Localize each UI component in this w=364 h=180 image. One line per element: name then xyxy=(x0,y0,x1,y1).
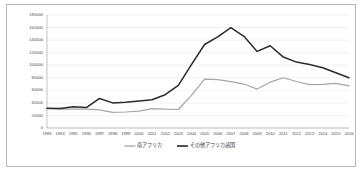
x-axis-tick-label: 2005 xyxy=(200,131,210,136)
x-axis-tick-label: 2013 xyxy=(305,131,315,136)
y-axis-tick-label: 120000 xyxy=(29,50,43,55)
x-axis-tick-label: 2015 xyxy=(331,131,341,136)
x-axis-tick-label: 2006 xyxy=(213,131,223,136)
gridlines xyxy=(47,15,349,128)
x-axis-tick-label: 2014 xyxy=(318,131,328,136)
y-axis-tick-label: 40000 xyxy=(32,100,44,105)
x-axis-tick-label: 1995 xyxy=(69,131,79,136)
x-axis-tick-label: 2016 xyxy=(344,131,354,136)
y-axis-tick-label: 140000 xyxy=(29,37,43,42)
x-axis-tick-label: 1999 xyxy=(121,131,131,136)
legend-item-label[interactable]: 南アフリカ xyxy=(137,141,162,148)
x-axis-tick-label: 2003 xyxy=(174,131,184,136)
y-axis-tick-label: 0 xyxy=(41,125,44,130)
x-axis-tick-label: 1993 xyxy=(42,131,52,136)
x-axis-tick-labels: 1993199419951996199719981999200020012002… xyxy=(42,131,354,136)
y-axis-tick-label: 180000 xyxy=(29,12,43,17)
x-axis-tick-label: 2002 xyxy=(161,131,171,136)
y-axis-tick-label: 160000 xyxy=(29,25,43,30)
y-axis-tick-label: 60000 xyxy=(32,87,44,92)
chart-plot-container: 0200004000060000800001000001200001400001… xyxy=(7,5,355,166)
y-axis-tick-label: 80000 xyxy=(32,75,44,80)
y-axis-tick-label: 100000 xyxy=(29,62,43,67)
chart-figure-frame: 0200004000060000800001000001200001400001… xyxy=(6,4,356,167)
series-line-0 xyxy=(47,78,349,113)
x-axis-tick-label: 2001 xyxy=(147,131,157,136)
x-axis-tick-label: 2007 xyxy=(226,131,236,136)
legend-item-label[interactable]: その他アフリカ諸国 xyxy=(190,141,235,149)
x-axis-tick-label: 2009 xyxy=(253,131,263,136)
series-line-1 xyxy=(47,28,349,109)
y-axis-tick-label: 20000 xyxy=(32,113,44,118)
chart-legend[interactable]: 南アフリカその他アフリカ諸国 xyxy=(124,141,234,149)
axis-lines xyxy=(47,15,349,128)
x-axis-tick-label: 2010 xyxy=(266,131,276,136)
x-axis-tick-label: 1994 xyxy=(56,131,66,136)
x-axis-tick-label: 1996 xyxy=(82,131,92,136)
x-axis-tick-label: 2000 xyxy=(134,131,144,136)
x-axis-tick-label: 2011 xyxy=(279,131,289,136)
x-axis-tick-label: 2004 xyxy=(187,131,197,136)
y-axis-tick-labels: 0200004000060000800001000001200001400001… xyxy=(29,12,43,130)
x-axis-tick-label: 2008 xyxy=(239,131,249,136)
x-axis-tick-label: 1998 xyxy=(108,131,118,136)
x-axis-tick-label: 1997 xyxy=(95,131,105,136)
line-chart: 0200004000060000800001000001200001400001… xyxy=(7,5,355,166)
x-axis-tick-label: 2012 xyxy=(292,131,302,136)
